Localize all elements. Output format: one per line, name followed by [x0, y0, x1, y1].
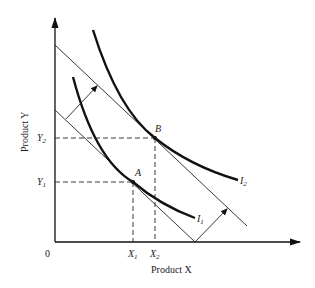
y-axis-title: Product Y: [19, 112, 30, 152]
point-b-marker: [153, 136, 157, 140]
origin-label: 0: [45, 248, 50, 259]
point-a-label: A: [134, 167, 142, 178]
indifference-curve-1: [73, 77, 195, 218]
indifference-diagram: B A Y2 Y1 X1 X2 0 I2 I1 Product X Produc…: [0, 0, 315, 288]
indifference-curve-2: [93, 30, 238, 180]
x-axis-title: Product X: [151, 264, 193, 275]
curve-i2-label: I2: [239, 175, 247, 188]
curve-i1-label: I1: [196, 213, 204, 226]
point-a-marker: [131, 180, 135, 184]
x1-tick-label: X1: [127, 248, 138, 261]
point-b-label: B: [155, 123, 161, 134]
y2-tick-label: Y2: [37, 132, 47, 145]
x2-tick-label: X2: [149, 248, 160, 261]
y1-tick-label: Y1: [37, 176, 46, 189]
